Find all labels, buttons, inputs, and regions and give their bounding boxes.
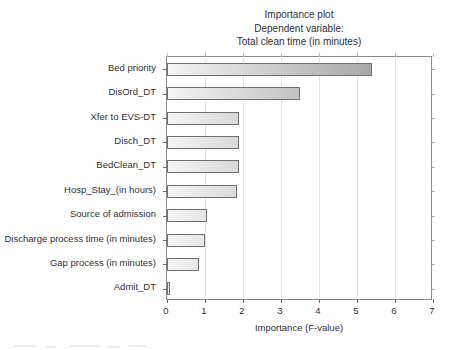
y-axis-tick-right xyxy=(431,69,435,70)
y-axis-tick-right xyxy=(431,240,435,241)
x-axis-tick xyxy=(281,299,282,303)
x-axis-tick-label: 0 xyxy=(163,305,168,316)
x-axis-tick xyxy=(167,299,168,303)
bar xyxy=(167,112,239,125)
y-axis-category-label: Gap process (in minutes) xyxy=(50,257,156,268)
x-axis-tick xyxy=(357,299,358,303)
bar xyxy=(167,282,170,295)
x-axis-tick-label: 4 xyxy=(315,305,320,316)
x-axis-tick-top xyxy=(281,53,282,57)
x-axis-tick-label: 5 xyxy=(353,305,358,316)
y-axis-category-label: Hosp_Stay_(in hours) xyxy=(64,184,156,195)
y-axis-category-label: Bed priority xyxy=(108,62,156,73)
y-axis-tick-right xyxy=(431,167,435,168)
y-axis-tick xyxy=(163,289,167,290)
chart-title-line-1: Importance plot xyxy=(166,8,432,22)
bar xyxy=(167,136,239,149)
x-axis-tick-top xyxy=(395,53,396,57)
y-axis-tick xyxy=(163,118,167,119)
y-axis-tick-right xyxy=(431,289,435,290)
y-axis-tick-right xyxy=(431,118,435,119)
x-axis-tick xyxy=(433,299,434,303)
x-axis-tick-top xyxy=(243,53,244,57)
bar xyxy=(167,87,300,100)
x-axis-tick-top xyxy=(319,53,320,57)
bar xyxy=(167,160,239,173)
y-axis-tick xyxy=(163,94,167,95)
y-axis-tick-right xyxy=(431,191,435,192)
x-axis-tick-labels: 01234567 xyxy=(166,305,432,319)
x-axis-tick-top xyxy=(167,53,168,57)
bar xyxy=(167,185,237,198)
bar xyxy=(167,209,207,222)
y-axis-category-label: Source of admission xyxy=(70,208,156,219)
y-axis-tick xyxy=(163,69,167,70)
y-axis-category-label: DisOrd_DT xyxy=(108,86,156,97)
bar xyxy=(167,63,372,76)
x-axis-tick xyxy=(395,299,396,303)
y-axis-category-label: BedClean_DT xyxy=(96,159,156,170)
chart-title-line-2: Dependent variable: xyxy=(166,22,432,36)
bar xyxy=(167,234,205,247)
y-axis-tick xyxy=(163,142,167,143)
y-axis-tick-right xyxy=(431,264,435,265)
chart-title: Importance plot Dependent variable: Tota… xyxy=(166,8,432,49)
x-axis-tick-label: 7 xyxy=(429,305,434,316)
y-axis-tick xyxy=(163,191,167,192)
x-axis-tick-label: 1 xyxy=(201,305,206,316)
y-axis-category-label: Admit_DT xyxy=(114,281,156,292)
plot-area xyxy=(166,56,432,300)
y-axis-tick-right xyxy=(431,216,435,217)
y-axis-category-label: Discharge process time (in minutes) xyxy=(4,233,156,244)
bars-layer xyxy=(167,57,431,299)
x-axis-tick xyxy=(205,299,206,303)
x-axis-tick-label: 6 xyxy=(391,305,396,316)
y-axis-tick-right xyxy=(431,142,435,143)
y-axis-tick xyxy=(163,216,167,217)
scan-artifacts xyxy=(0,343,449,350)
bar xyxy=(167,258,199,271)
x-axis-tick-top xyxy=(205,53,206,57)
x-axis-tick-top xyxy=(433,53,434,57)
x-axis-tick-top xyxy=(357,53,358,57)
y-axis-tick xyxy=(163,264,167,265)
y-axis-tick xyxy=(163,240,167,241)
x-axis-tick-label: 3 xyxy=(277,305,282,316)
x-axis-tick xyxy=(243,299,244,303)
y-axis-labels: Bed priorityDisOrd_DTXfer to EVS-DTDisch… xyxy=(0,56,162,300)
y-axis-tick-right xyxy=(431,94,435,95)
x-axis-title: Importance (F-value) xyxy=(166,322,432,333)
y-axis-category-label: Xfer to EVS-DT xyxy=(91,111,156,122)
x-axis-tick xyxy=(319,299,320,303)
y-axis-category-label: Disch_DT xyxy=(114,135,156,146)
x-axis-tick-label: 2 xyxy=(239,305,244,316)
y-axis-tick xyxy=(163,167,167,168)
chart-title-line-3: Total clean time (in minutes) xyxy=(166,35,432,49)
